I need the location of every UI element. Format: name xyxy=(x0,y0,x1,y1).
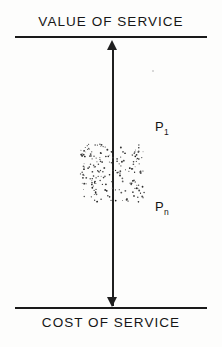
cost-of-service-boundary-rule xyxy=(15,307,207,309)
price-label-p1-letter: P xyxy=(155,119,164,134)
price-label-p1-subscript: 1 xyxy=(164,127,169,137)
scan-artifact-speck xyxy=(152,70,154,72)
price-label-pn-subscript: n xyxy=(164,207,169,217)
value-of-service-label: VALUE OF SERVICE xyxy=(0,14,222,29)
price-range-diagram: VALUE OF SERVICE P1 Pn COST OF SERVICE xyxy=(0,0,222,347)
price-label-p1: P1 xyxy=(155,119,169,137)
price-range-stipple-region xyxy=(79,143,146,203)
stipple-dots xyxy=(79,143,146,203)
arrow-down-icon xyxy=(107,297,117,307)
value-of-service-boundary-rule xyxy=(15,36,207,38)
price-label-pn-letter: P xyxy=(155,199,164,214)
cost-of-service-label: COST OF SERVICE xyxy=(0,315,222,330)
price-label-pn: Pn xyxy=(155,199,169,217)
